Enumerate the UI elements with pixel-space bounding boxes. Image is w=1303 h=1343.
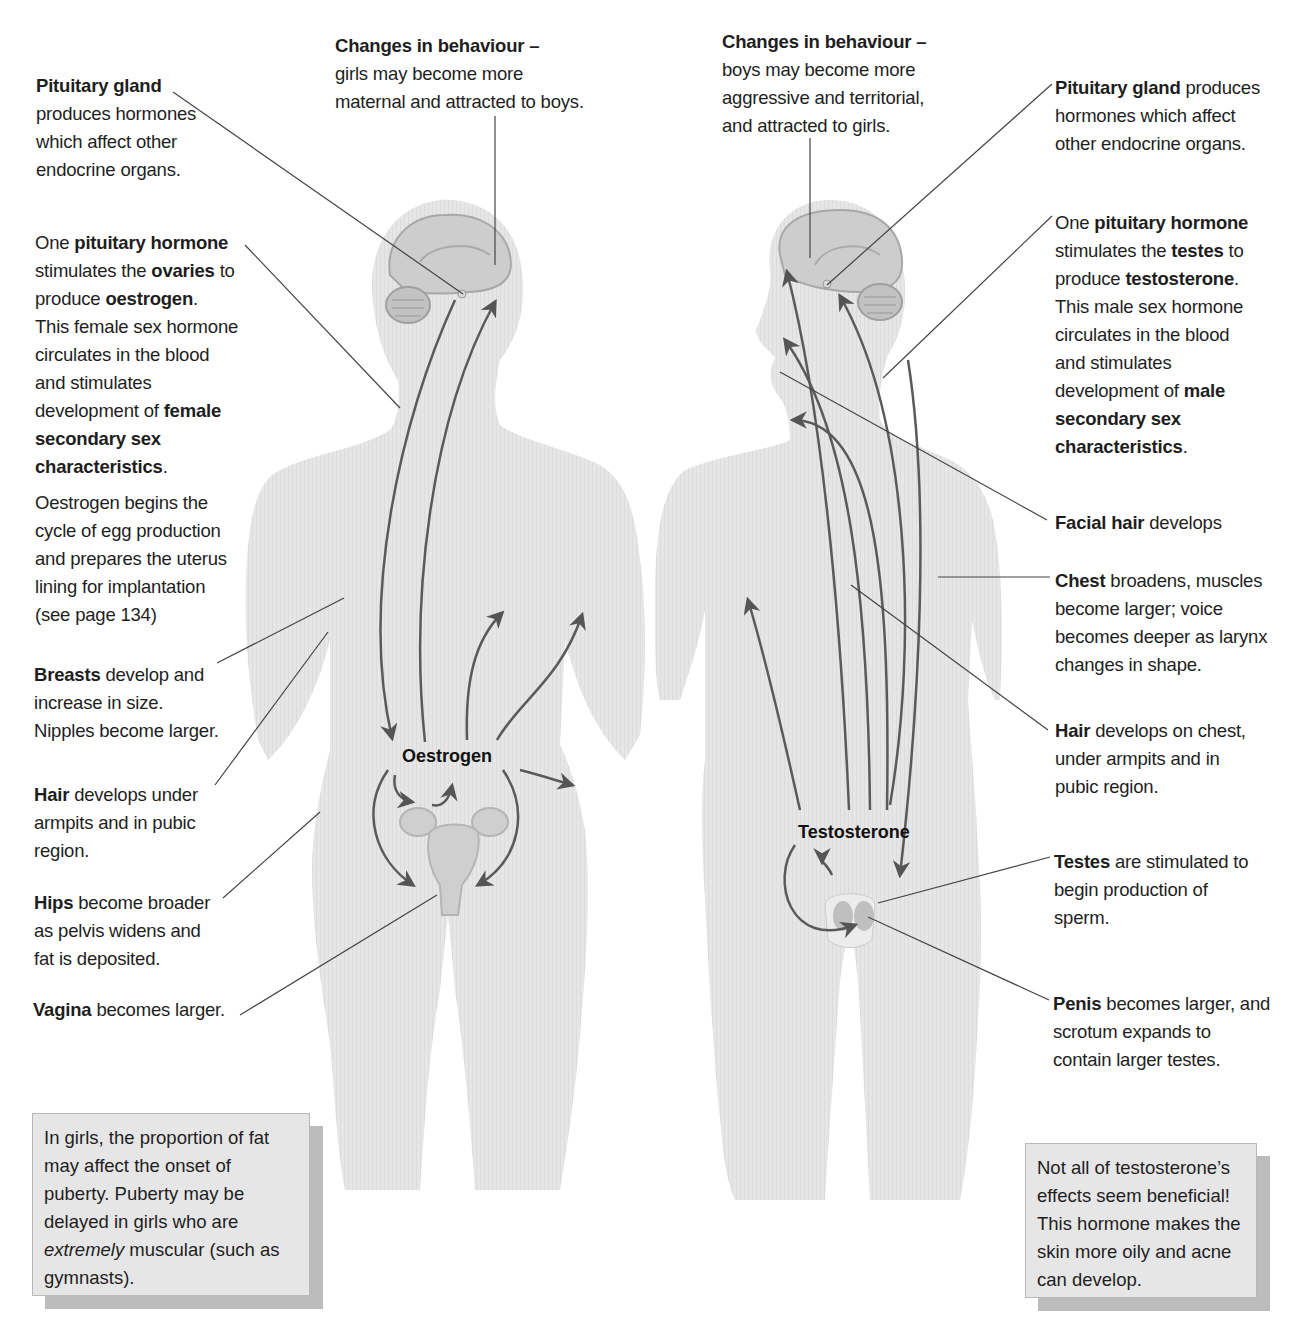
label-text: under armpits and in	[1055, 748, 1220, 769]
label-text: lining for implantation	[35, 576, 205, 597]
label-bold: characteristics	[35, 456, 163, 477]
male-facial-hair-label: Facial hair develops	[1055, 509, 1222, 537]
label-text: armpits and in pubic	[34, 812, 196, 833]
female-hair-label: Hair develops under armpits and in pubic…	[34, 781, 198, 865]
label-text: contain larger testes.	[1053, 1049, 1220, 1070]
label-text: which affect other	[36, 131, 177, 152]
testes	[825, 894, 875, 948]
label-heading: Testes	[1054, 851, 1110, 872]
note-text: muscular (such as	[124, 1239, 279, 1260]
label-text: develops on chest,	[1090, 720, 1246, 741]
label-text: development of	[1055, 380, 1184, 401]
male-chest-label: Chest broadens, muscles become larger; v…	[1055, 567, 1267, 679]
label-text: circulates in the blood	[35, 344, 209, 365]
label-heading: Changes in behaviour –	[335, 35, 539, 56]
label-text: as pelvis widens and	[34, 920, 201, 941]
label-bold: testes	[1171, 240, 1223, 261]
note-text: delayed in girls who are	[44, 1211, 238, 1232]
oestrogen-label: Oestrogen	[402, 746, 492, 767]
label-text: other endocrine organs.	[1055, 133, 1246, 154]
label-text: develop and	[100, 664, 204, 685]
female-hips-label: Hips become broader as pelvis widens and…	[34, 889, 210, 973]
label-text: produce	[35, 288, 105, 309]
male-pituitary-gland-label: Pituitary gland produces hormones which …	[1055, 74, 1260, 158]
label-text: sperm.	[1054, 907, 1109, 928]
female-egg-cycle-label: Oestrogen begins the cycle of egg produc…	[35, 489, 227, 629]
female-body	[246, 200, 645, 1190]
label-text: This male sex hormone	[1055, 296, 1243, 317]
label-text: develops under	[69, 784, 198, 805]
label-text: fat is deposited.	[34, 948, 160, 969]
label-bold: female	[164, 400, 221, 421]
female-behaviour-label: Changes in behaviour – girls may become …	[335, 32, 584, 116]
label-text: broadens, muscles	[1105, 570, 1262, 591]
label-heading: Changes in behaviour –	[722, 31, 926, 52]
label-text: scrotum expands to	[1053, 1021, 1211, 1042]
label-text: Nipples become larger.	[34, 720, 219, 741]
label-text: increase in size.	[34, 692, 163, 713]
label-text: begin production of	[1054, 879, 1208, 900]
label-text: One	[35, 232, 74, 253]
label-bold: secondary sex	[1055, 408, 1181, 429]
male-penis-label: Penis becomes larger, and scrotum expand…	[1053, 990, 1270, 1074]
label-bold: characteristics	[1055, 436, 1183, 457]
female-vagina-label: Vagina becomes larger.	[33, 996, 225, 1024]
label-text: maternal and attracted to boys.	[335, 91, 584, 112]
label-text: becomes deeper as larynx	[1055, 626, 1267, 647]
label-heading: Breasts	[34, 664, 100, 685]
note-text: This hormone makes the	[1037, 1213, 1241, 1234]
note-text: can develop.	[1037, 1269, 1142, 1290]
female-pituitary-hormone-label: One pituitary hormone stimulates the ova…	[35, 229, 238, 481]
label-heading: Penis	[1053, 993, 1101, 1014]
label-bold: oestrogen	[105, 288, 193, 309]
male-testes-label: Testes are stimulated to begin productio…	[1054, 848, 1248, 932]
label-text: stimulates the	[35, 260, 151, 281]
label-text: becomes larger.	[91, 999, 225, 1020]
male-pituitary-hormone-label: One pituitary hormone stimulates the tes…	[1055, 209, 1248, 461]
label-text: cycle of egg production	[35, 520, 221, 541]
note-text: Not all of testosterone’s	[1037, 1157, 1230, 1178]
label-heading: Chest	[1055, 570, 1105, 591]
label-heading: Hips	[34, 892, 73, 913]
label-text: circulates in the blood	[1055, 324, 1229, 345]
label-text: endocrine organs.	[36, 159, 181, 180]
label-text: and prepares the uterus	[35, 548, 227, 569]
label-heading: Hair	[1055, 720, 1090, 741]
label-text: are stimulated to	[1110, 851, 1248, 872]
label-text: becomes larger, and	[1101, 993, 1270, 1014]
label-heading: Hair	[34, 784, 69, 805]
label-heading: Pituitary gland	[36, 75, 162, 96]
label-text: changes in shape.	[1055, 654, 1202, 675]
female-info-note: In girls, the proportion of fat may affe…	[32, 1113, 310, 1296]
label-text: .	[163, 456, 168, 477]
label-text: stimulates the	[1055, 240, 1171, 261]
label-text: .	[1234, 268, 1239, 289]
male-behaviour-label: Changes in behaviour – boys may become m…	[722, 28, 926, 140]
label-text: (see page 134)	[35, 604, 157, 625]
female-breasts-label: Breasts develop and increase in size. Ni…	[34, 661, 219, 745]
label-text: This female sex hormone	[35, 316, 238, 337]
label-text: and stimulates	[1055, 352, 1171, 373]
female-pituitary-gland-label: Pituitary gland produces hormones which …	[36, 72, 196, 184]
label-heading: pituitary hormone	[74, 232, 228, 253]
label-text: .	[1183, 436, 1188, 457]
note-text: In girls, the proportion of fat	[44, 1127, 269, 1148]
label-text: produces	[1181, 77, 1260, 98]
testosterone-label: Testosterone	[798, 822, 910, 843]
note-text: may affect the onset of	[44, 1155, 231, 1176]
male-hair-label: Hair develops on chest, under armpits an…	[1055, 717, 1246, 801]
label-bold: secondary sex	[35, 428, 161, 449]
label-heading: Pituitary gland	[1055, 77, 1181, 98]
label-text: produces hormones	[36, 103, 196, 124]
label-heading: Vagina	[33, 999, 91, 1020]
label-text: .	[193, 288, 198, 309]
label-text: become larger; voice	[1055, 598, 1223, 619]
label-bold: testosterone	[1125, 268, 1234, 289]
label-text: One	[1055, 212, 1094, 233]
label-text: hormones which affect	[1055, 105, 1236, 126]
note-text: puberty. Puberty may be	[44, 1183, 244, 1204]
note-text: gymnasts).	[44, 1267, 134, 1288]
note-text: effects seem beneficial!	[1037, 1185, 1230, 1206]
label-text: girls may become more	[335, 63, 523, 84]
label-text: Oestrogen begins the	[35, 492, 208, 513]
